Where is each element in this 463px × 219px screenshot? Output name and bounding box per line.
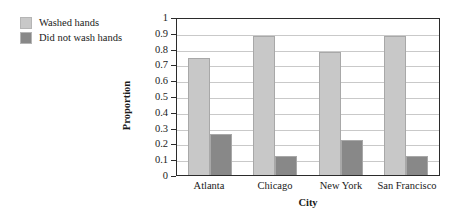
bar — [341, 140, 363, 175]
bar — [210, 134, 232, 175]
y-axis-tick-labels: 10.90.80.70.60.50.40.30.20.10 — [140, 18, 172, 176]
bar — [253, 36, 275, 175]
x-axis-tick-label: Atlanta — [177, 180, 241, 191]
y-axis-tick-mark — [171, 81, 176, 82]
bar — [384, 36, 406, 175]
y-axis-tick-mark — [171, 144, 176, 145]
chart-legend: Washed handsDid not wash hands — [20, 16, 150, 46]
legend-item-label: Washed hands — [39, 17, 99, 29]
y-axis-tick-mark — [171, 160, 176, 161]
y-axis-tick-label: 0.7 — [155, 60, 168, 70]
plot-area — [176, 18, 440, 176]
bar-group — [384, 19, 428, 175]
y-axis-title-label: Proportion — [122, 80, 133, 129]
bar-group — [253, 19, 297, 175]
y-axis-tick-label: 0.6 — [155, 76, 168, 86]
bar-group — [188, 19, 232, 175]
x-axis-tick-labels: AtlantaChicagoNew YorkSan Francisco — [176, 180, 440, 191]
x-axis-tick-label: San Francisco — [375, 180, 439, 191]
legend-swatch — [20, 17, 32, 29]
bar-series-container — [177, 19, 439, 175]
bar-group — [319, 19, 363, 175]
y-axis-tick-label: 0.8 — [155, 45, 168, 55]
y-axis-tick-mark — [171, 113, 176, 114]
y-axis-tick-label: 0.4 — [155, 108, 168, 118]
y-axis-tick-label: 0 — [163, 171, 168, 181]
x-axis-title: City — [176, 197, 440, 208]
bar-chart-figure: Washed handsDid not wash hands Proportio… — [0, 0, 463, 219]
y-axis-tick-mark — [171, 97, 176, 98]
legend-item: Washed hands — [20, 16, 150, 30]
y-axis-tick-mark — [171, 129, 176, 130]
y-axis-tick-label: 1 — [163, 13, 168, 23]
y-axis-tick-mark — [171, 18, 176, 19]
legend-swatch — [20, 32, 32, 44]
y-axis-tick-mark — [171, 176, 176, 177]
y-axis-title: Proportion — [119, 50, 135, 160]
x-axis-tick-label: Chicago — [243, 180, 307, 191]
y-axis-tick-label: 0.9 — [155, 29, 168, 39]
y-axis-tick-mark — [171, 34, 176, 35]
bar — [188, 58, 210, 175]
y-axis-tick-mark — [171, 65, 176, 66]
y-axis-tick-label: 0.3 — [155, 124, 168, 134]
legend-item-label: Did not wash hands — [39, 32, 122, 44]
bar — [275, 156, 297, 175]
x-axis-tick-label: New York — [309, 180, 373, 191]
bar — [406, 156, 428, 175]
y-axis-tick-label: 0.2 — [155, 139, 168, 149]
y-axis-tick-label: 0.1 — [155, 155, 168, 165]
y-axis-tick-label: 0.5 — [155, 92, 168, 102]
y-axis-tick-mark — [171, 50, 176, 51]
legend-item: Did not wash hands — [20, 31, 150, 45]
bar — [319, 52, 341, 175]
